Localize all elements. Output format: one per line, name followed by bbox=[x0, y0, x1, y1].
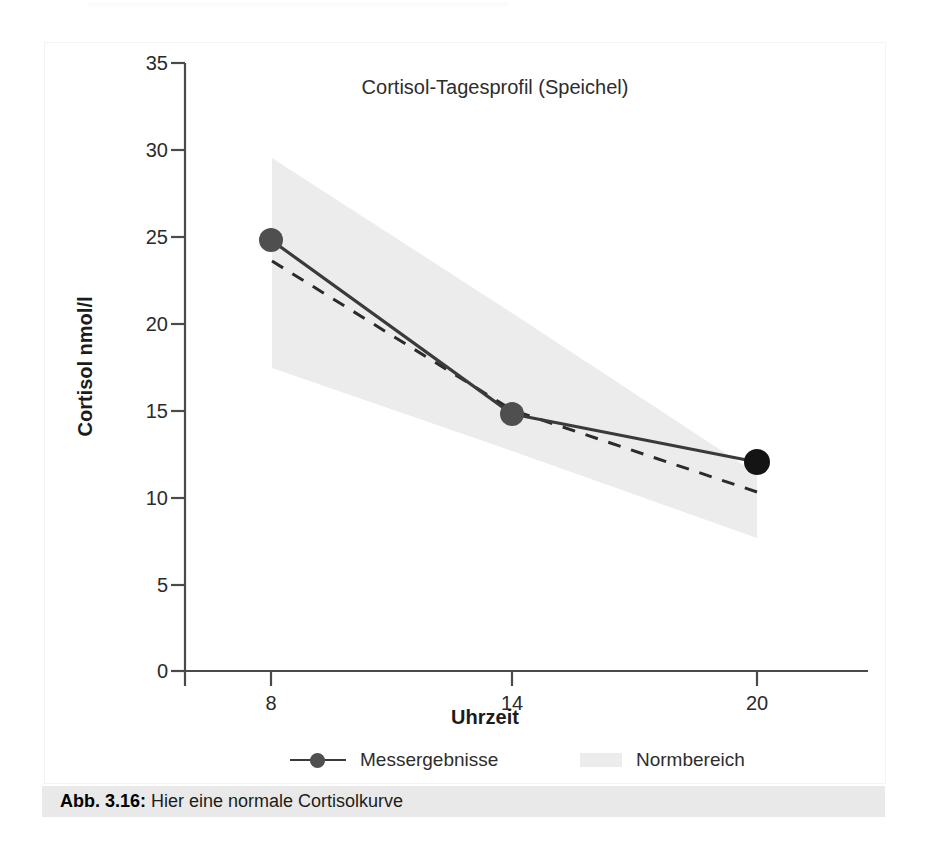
figure-caption-number: Abb. 3.16: bbox=[60, 791, 146, 811]
y-tick-label-35: 35 bbox=[120, 52, 168, 75]
y-tick-label-0: 0 bbox=[120, 660, 168, 683]
band-swatch-icon bbox=[580, 753, 622, 767]
scan-artifact-strip bbox=[88, 2, 508, 7]
x-axis-title: Uhrzeit bbox=[385, 706, 585, 729]
figure-frame bbox=[44, 42, 886, 784]
figure-caption: Abb. 3.16: Hier eine normale Cortisolkur… bbox=[42, 791, 403, 812]
line-marker-swatch-icon bbox=[290, 751, 346, 769]
y-tick-label-30: 30 bbox=[120, 139, 168, 162]
y-tick-label-25: 25 bbox=[120, 226, 168, 249]
y-tick-label-5: 5 bbox=[120, 574, 168, 597]
y-tick-label-15: 15 bbox=[120, 400, 168, 423]
x-tick-label-20: 20 bbox=[727, 692, 787, 715]
y-tick-label-10: 10 bbox=[120, 487, 168, 510]
figure-caption-bar: Abb. 3.16: Hier eine normale Cortisolkur… bbox=[42, 786, 885, 817]
legend-item-messergebnisse: Messergebnisse bbox=[290, 745, 498, 775]
legend-label-messergebnisse: Messergebnisse bbox=[360, 749, 498, 771]
legend-item-normbereich: Normbereich bbox=[580, 745, 745, 775]
y-axis-title: Cortisol nmol/l bbox=[74, 257, 97, 477]
chart-legend: Messergebnisse Normbereich bbox=[280, 745, 800, 779]
y-tick-label-20: 20 bbox=[120, 313, 168, 336]
x-tick-label-8: 8 bbox=[241, 692, 301, 715]
legend-label-normbereich: Normbereich bbox=[636, 749, 745, 771]
figure-caption-body: Hier eine normale Cortisolkurve bbox=[146, 791, 403, 811]
chart-title: Cortisol-Tagesprofil (Speichel) bbox=[330, 76, 660, 99]
